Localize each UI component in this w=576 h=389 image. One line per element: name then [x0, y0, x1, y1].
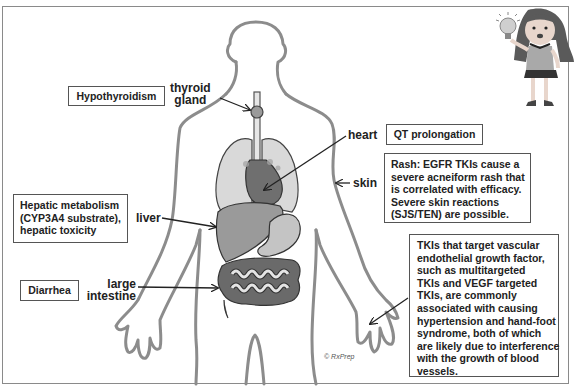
vegf-text-line: syndrome, both of which: [417, 327, 552, 340]
rash-text-line: severe acneiform rash that: [391, 171, 524, 184]
hepatic-text-line: hepatic toxicity: [20, 224, 121, 237]
skin-label: skin: [353, 177, 377, 189]
rash-text-line: (SJS/TEN) are possible.: [391, 208, 524, 221]
vegf-text-line: hypertension and hand-foot: [417, 315, 552, 328]
qt-prolongation-box: QT prolongation: [386, 124, 483, 145]
hepatic-text-line: (CYP3A4 substrate),: [20, 212, 121, 225]
vegf-text-line: endothelial growth factor,: [417, 252, 552, 265]
vegf-text-line: are likely due to interference: [417, 340, 552, 353]
vegf-text-line: TKIs and VEGF targeted: [417, 277, 552, 290]
rash-text-line: Rash: EGFR TKIs cause a: [391, 158, 524, 171]
rash-box: Rash: EGFR TKIs cause a severe acneiform…: [384, 153, 531, 223]
thyroid-label-line-2: gland: [170, 94, 211, 106]
rash-text-line: is correlated with efficacy.: [391, 183, 524, 196]
diarrhea-box: Diarrhea: [20, 280, 79, 301]
vegf-text-line: with the growth of blood: [417, 352, 552, 365]
rash-text-line: Severe skin reactions: [391, 196, 524, 209]
vegf-box: TKIs that target vascular endothelial gr…: [409, 234, 559, 377]
vegf-text-line: TKIs that target vascular: [417, 239, 552, 252]
thyroid-gland-label: thyroid gland: [170, 82, 211, 106]
thyroid-gland: [251, 106, 263, 118]
large-intestine-label: large intestine: [86, 278, 136, 302]
vegf-text-line: vessels.: [417, 365, 552, 378]
copyright-credit: © RxPrep: [324, 353, 354, 360]
hypothyroidism-box: Hypothyroidism: [68, 86, 165, 106]
liver-label: liver: [136, 212, 161, 224]
vegf-text-line: such as multitargeted: [417, 264, 552, 277]
hepatic-box: Hepatic metabolism (CYP3A4 substrate), h…: [13, 194, 128, 243]
girl-with-lightbulb-icon: [496, 8, 574, 106]
hepatic-text-line: Hepatic metabolism: [20, 199, 121, 212]
heart-label: heart: [348, 129, 377, 141]
vegf-text-line: TKIs, are commonly: [417, 289, 552, 302]
large-intestine-label-line-2: intestine: [86, 290, 136, 302]
vegf-text-line: associated with causing: [417, 302, 552, 315]
